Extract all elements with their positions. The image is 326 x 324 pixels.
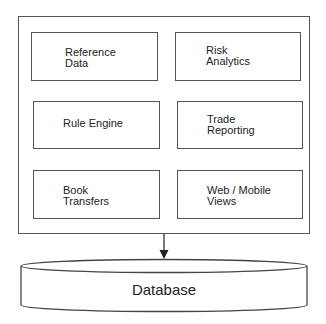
database-label: Database: [21, 282, 307, 298]
arrow-down-icon: [160, 234, 169, 259]
diagram-graphics: [0, 0, 326, 324]
